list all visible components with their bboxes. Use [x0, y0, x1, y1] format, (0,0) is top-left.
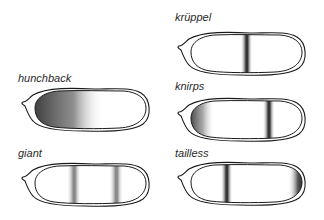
- embryo-tailless: [175, 158, 309, 208]
- label-knirps: knirps: [175, 81, 204, 92]
- expression-band: [221, 158, 233, 208]
- embryo-kruppel: [175, 28, 309, 78]
- vitelline-membrane-outline: [22, 163, 149, 206]
- label-hunchback: hunchback: [18, 73, 71, 84]
- expression-band: [67, 159, 81, 209]
- embryo-knirps: [175, 94, 309, 144]
- embryo-body-outline: [191, 165, 302, 203]
- vitelline-membrane-outline: [178, 162, 305, 205]
- expression-band: [263, 94, 275, 144]
- embryo-hunchback: [19, 84, 153, 134]
- embryo-giant: [19, 159, 153, 209]
- label-giant: giant: [18, 148, 42, 159]
- expression-band: [241, 28, 253, 78]
- expression-band: [109, 159, 123, 209]
- embryo-body-outline: [35, 166, 146, 204]
- label-kruppel: krüppel: [175, 12, 211, 23]
